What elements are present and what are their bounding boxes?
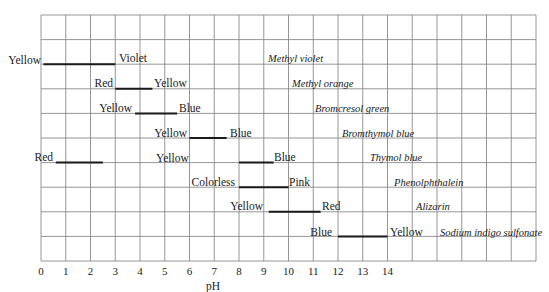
x-axis-title: pH xyxy=(206,280,220,292)
methyl-orange-low-label: Red xyxy=(94,77,113,89)
thymol-blue-low-label: Red xyxy=(34,151,53,163)
x-tick-label: 0 xyxy=(38,265,44,277)
alizarin-low-label: Yellow xyxy=(230,200,263,212)
sodium-indigo-sulfonate-name: Sodium indigo sulfonate xyxy=(440,227,542,238)
methyl-violet-low-label: Yellow xyxy=(8,54,41,66)
chart-grid xyxy=(41,15,536,261)
thymol-blue-high-label: Blue xyxy=(274,151,296,163)
x-tick-label: 14 xyxy=(382,265,394,277)
methyl-violet-high-label: Violet xyxy=(119,52,148,64)
x-tick-label: 12 xyxy=(333,265,344,277)
x-tick-label: 8 xyxy=(236,265,242,277)
phenolphthalein-high-label: Pink xyxy=(289,176,310,188)
sodium-indigo-sulfonate-low-label: Blue xyxy=(310,226,332,238)
x-tick-label: 7 xyxy=(212,265,218,277)
x-tick-label: 11 xyxy=(308,265,319,277)
bromthymol-blue-name: Bromthymol blue xyxy=(342,128,415,139)
alizarin-name: Alizarin xyxy=(415,201,450,212)
indicator-ph-range-chart: Yellow Violet Methyl violet Red Yellow M… xyxy=(0,0,549,292)
methyl-violet-name: Methyl violet xyxy=(267,53,324,64)
methyl-orange-high-label: Yellow xyxy=(154,77,187,89)
x-tick-label: 6 xyxy=(187,265,193,277)
bromcresol-green-low-label: Yellow xyxy=(99,102,132,114)
methyl-orange-name: Methyl orange xyxy=(291,78,354,89)
x-tick-label: 3 xyxy=(113,265,119,277)
x-tick-label: 4 xyxy=(137,265,143,277)
x-tick-label: 13 xyxy=(357,265,369,277)
bromthymol-blue-low-label: Yellow xyxy=(154,127,187,139)
thymol-blue-mid-label: Yellow xyxy=(156,152,189,164)
x-tick-label: 5 xyxy=(162,265,168,277)
x-tick-label: 9 xyxy=(261,265,267,277)
alizarin-high-label: Red xyxy=(322,200,341,212)
bromthymol-blue-high-label: Blue xyxy=(230,127,252,139)
x-tick-label: 2 xyxy=(88,265,94,277)
phenolphthalein-low-label: Colorless xyxy=(192,176,236,188)
thymol-blue-name: Thymol blue xyxy=(370,152,423,163)
bromcresol-green-high-label: Blue xyxy=(179,102,201,114)
sodium-indigo-sulfonate-high-label: Yellow xyxy=(390,226,423,238)
x-axis-ticks: 01234567891011121314 xyxy=(38,265,393,277)
bromcresol-green-name: Bromcresol green xyxy=(315,103,389,114)
phenolphthalein-name: Phenolphthalein xyxy=(393,177,463,188)
x-tick-label: 1 xyxy=(63,265,69,277)
x-tick-label: 10 xyxy=(283,265,295,277)
